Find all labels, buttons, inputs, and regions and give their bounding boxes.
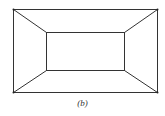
vertex-bottom-right (157, 92, 159, 94)
vertex-bottom-left (13, 92, 15, 94)
figure-caption: (b) (0, 98, 165, 108)
outer-rectangle (14, 10, 158, 93)
diagram-canvas: (b) (0, 0, 165, 116)
vertex-top-left (13, 9, 15, 11)
vertex-top-right (157, 9, 159, 11)
connector-top-right (125, 10, 158, 33)
connector-bottom-right (125, 71, 158, 93)
connector-top-left (14, 10, 47, 33)
inner-rectangle (47, 33, 125, 71)
connector-bottom-left (14, 71, 47, 93)
